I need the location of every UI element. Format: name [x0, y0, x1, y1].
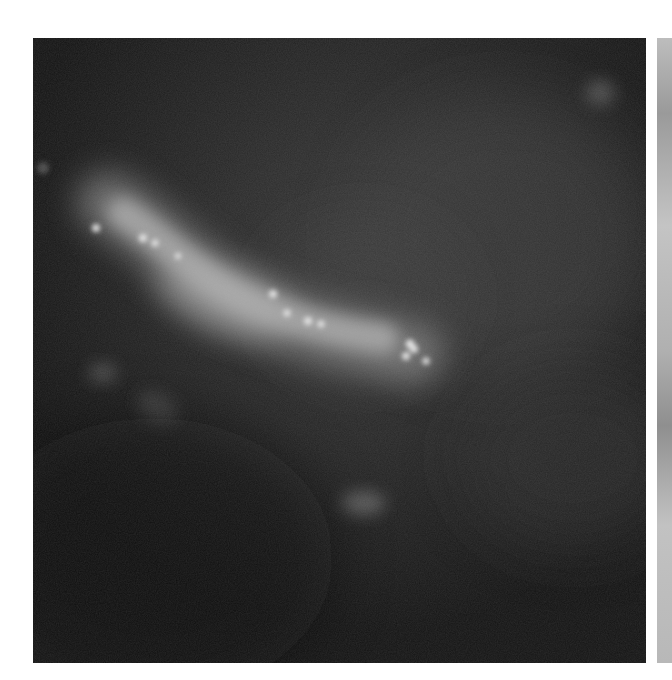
microscopy-panel-right-partial: [657, 38, 672, 663]
microscopy-panel-main: [33, 38, 646, 663]
fluorescence-image: [33, 38, 646, 663]
